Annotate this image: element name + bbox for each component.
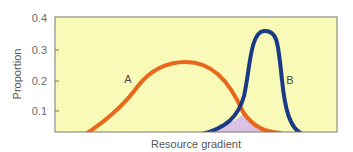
y-tick-0.4: 0.4 — [32, 12, 47, 24]
niche-overlap-chart: 0.4 0.3 0.2 0.1 Proportion Resource grad… — [0, 0, 353, 152]
y-axis-label: Proportion — [11, 49, 23, 100]
plot-background — [55, 17, 337, 132]
y-tick-0.3: 0.3 — [32, 44, 47, 56]
x-axis-label: Resource gradient — [151, 138, 241, 150]
curve-b-label: B — [286, 74, 293, 86]
y-tick-0.2: 0.2 — [32, 75, 47, 87]
curve-a-label: A — [124, 73, 132, 85]
y-tick-0.1: 0.1 — [32, 105, 47, 117]
